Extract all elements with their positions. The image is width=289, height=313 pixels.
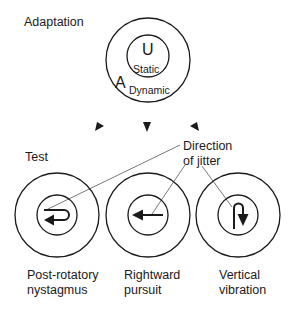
direction-annotation-line1: Direction (183, 139, 232, 154)
leader-line-left (46, 145, 180, 210)
static-letter-u: U (142, 42, 154, 57)
arrow-down-right-icon (190, 122, 199, 131)
test-outer-circle-1 (15, 173, 99, 257)
hook-arrow-left-icon (44, 210, 69, 226)
down-arrows (95, 122, 199, 132)
leader-line-middle (152, 165, 185, 214)
hook-arrow-down-icon (234, 204, 249, 230)
static-label: Static (133, 62, 159, 77)
test-inner-circle-1 (37, 195, 77, 235)
dynamic-letter-a: A (115, 75, 126, 90)
arrow-left-icon (132, 210, 163, 221)
condition-label-1-line1: Post-rotatory (27, 268, 99, 283)
arrow-down-left-icon (95, 122, 104, 131)
adaptation-title: Adaptation (24, 15, 84, 30)
dynamic-label: Dynamic (129, 83, 170, 98)
condition-label-3-line2: vibration (219, 283, 266, 298)
condition-label-2-line1: Rightward (124, 268, 180, 283)
condition-label-3-line1: Vertical (219, 268, 260, 283)
condition-label-2-line2: pursuit (124, 283, 162, 298)
condition-label-1-line2: nystagmus (27, 283, 87, 298)
direction-annotation-line2: of jitter (183, 154, 221, 169)
test-title: Test (25, 150, 48, 165)
arrow-down-icon (143, 122, 151, 132)
